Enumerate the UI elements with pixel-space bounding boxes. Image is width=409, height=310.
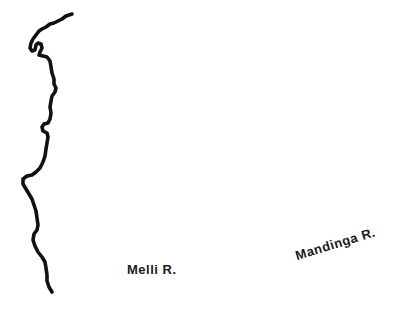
melli-river-label: Melli R. — [127, 262, 177, 277]
coastline-layer — [0, 0, 409, 310]
coastline — [23, 14, 72, 292]
map-canvas: Melli R. Mandinga R. — [0, 0, 409, 310]
